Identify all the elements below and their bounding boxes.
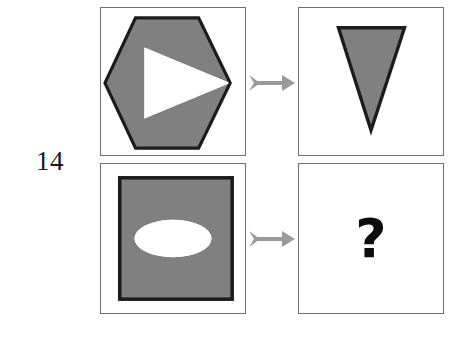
transform-arrow-top (248, 72, 296, 94)
question-mark: ? (299, 164, 443, 313)
ellipse-cutout (135, 220, 212, 257)
panel-bottom-left (100, 163, 246, 314)
triangle-shape (338, 28, 404, 131)
panel-top-left (100, 7, 246, 156)
arrow-glyph (249, 231, 295, 247)
downward-triangle-figure (299, 8, 443, 155)
panel-bottom-right[interactable]: ? (298, 163, 444, 314)
hexagon-with-triangle-cutout-figure (101, 8, 245, 155)
square-with-ellipse-cutout-figure (101, 164, 245, 313)
panel-top-right (298, 7, 444, 156)
arrow-glyph (249, 75, 295, 91)
item-number-label: 14 (20, 148, 80, 175)
transform-arrow-bottom (248, 228, 296, 250)
analogy-puzzle: 14 ? (0, 0, 466, 340)
